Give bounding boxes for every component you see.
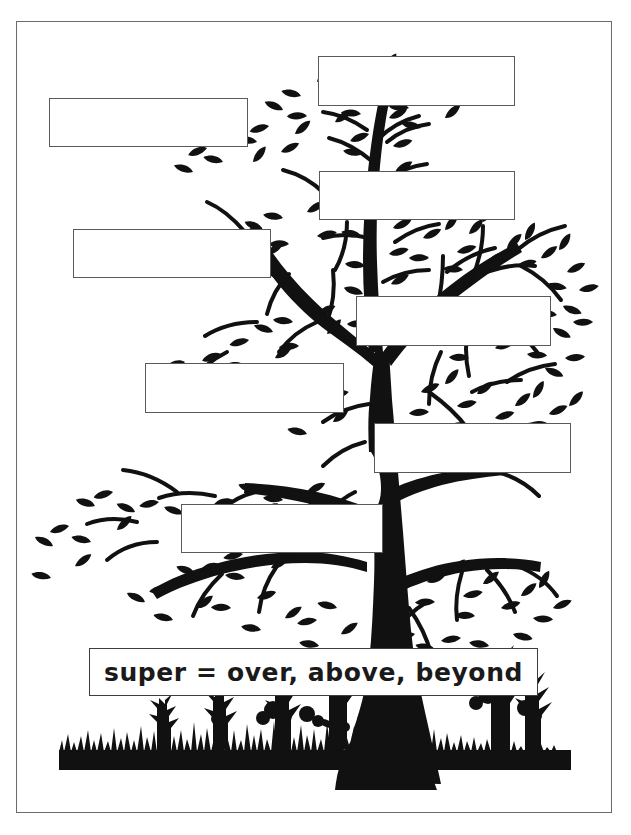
answer-box-7[interactable] [374, 423, 571, 473]
worksheet-page: super = over, above, beyond [0, 0, 631, 835]
definition-text: super = over, above, beyond [104, 658, 523, 687]
answer-box-1[interactable] [49, 98, 248, 147]
answer-box-6[interactable] [145, 363, 344, 413]
definition-box: super = over, above, beyond [89, 648, 538, 696]
answer-box-2[interactable] [318, 56, 515, 106]
answer-box-4[interactable] [73, 229, 271, 278]
answer-box-8[interactable] [181, 504, 383, 553]
answer-box-3[interactable] [319, 171, 515, 220]
answer-box-5[interactable] [356, 296, 551, 346]
